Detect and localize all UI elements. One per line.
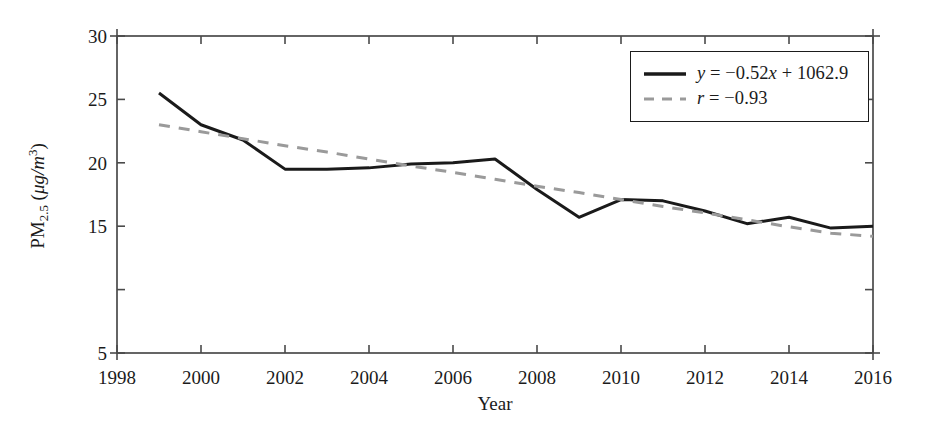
x-tick-label: 2016 bbox=[854, 368, 892, 387]
x-tick-label: 2002 bbox=[266, 368, 304, 387]
y-tick-label: 30 bbox=[69, 27, 107, 46]
y-tick-label: 15 bbox=[69, 217, 107, 236]
dashed-line-swatch bbox=[642, 92, 688, 106]
x-tick-label: 2004 bbox=[350, 368, 388, 387]
solid-line-swatch bbox=[642, 67, 688, 81]
y-axis-title: PM2.5 (μg/m3) bbox=[27, 143, 49, 249]
x-tick-label: 2012 bbox=[686, 368, 724, 387]
legend-label: r = −0.93 bbox=[697, 88, 768, 109]
y-tick-label: 25 bbox=[69, 90, 107, 109]
y-tick-label: 20 bbox=[69, 153, 107, 172]
x-tick-label: 2000 bbox=[182, 368, 220, 387]
x-tick-label: 2010 bbox=[602, 368, 640, 387]
x-tick-label: 2008 bbox=[518, 368, 556, 387]
pm25-trend-chart: 515202530 199820002002200420062008201020… bbox=[0, 0, 935, 429]
legend-entry: y = −0.52x + 1062.9 bbox=[642, 61, 857, 86]
x-tick-label: 2006 bbox=[434, 368, 472, 387]
legend-entry: r = −0.93 bbox=[642, 86, 857, 111]
x-axis-title: Year bbox=[477, 393, 512, 415]
x-tick-label: 2014 bbox=[770, 368, 808, 387]
chart-legend: y = −0.52x + 1062.9r = −0.93 bbox=[630, 51, 869, 122]
legend-label: y = −0.52x + 1062.9 bbox=[697, 63, 848, 84]
y-tick-label: 5 bbox=[69, 344, 107, 363]
x-tick-label: 1998 bbox=[98, 368, 136, 387]
